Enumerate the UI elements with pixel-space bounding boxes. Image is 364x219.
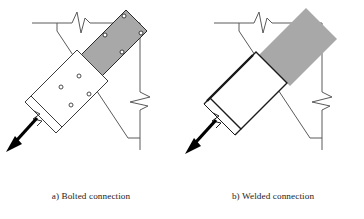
- diagram-bolted: [0, 0, 182, 190]
- break-line-icon: [72, 12, 90, 33]
- bolt-hole: [139, 31, 143, 35]
- break-line-icon: [312, 92, 332, 110]
- bolt-hole: [87, 92, 91, 96]
- brace-force-arrow: [185, 120, 216, 154]
- bolt-hole: [103, 33, 107, 37]
- panel-caption-bolted: a) Bolted connection: [0, 190, 182, 203]
- figure-brace-connections: a) Bolted connection: [0, 0, 364, 219]
- diagram-welded: [182, 0, 364, 190]
- bolt-hole: [77, 74, 81, 78]
- break-line-icon: [130, 92, 150, 110]
- bolt-hole: [120, 50, 124, 54]
- bolt-hole: [69, 103, 73, 107]
- bolt-hole: [122, 14, 126, 18]
- bolt-hole: [59, 85, 63, 89]
- panel-caption-welded: b) Welded connection: [182, 190, 364, 203]
- break-line-icon: [254, 12, 272, 33]
- brace-force-arrow: [6, 118, 37, 152]
- panel-welded-connection: b) Welded connection: [182, 0, 364, 219]
- panel-bolted-connection: a) Bolted connection: [0, 0, 182, 219]
